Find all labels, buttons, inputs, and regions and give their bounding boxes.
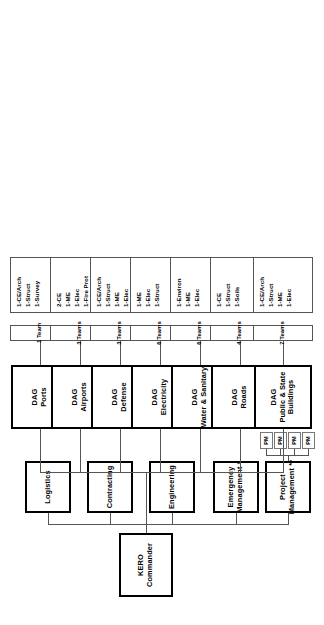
- pm-node-1[interactable]: PM: [260, 432, 273, 449]
- staff-label-4-line-2: Management **: [288, 460, 297, 514]
- dag-water-sanitary-name-line-2: Water & Sanitary: [200, 367, 209, 427]
- dag-roads-staff-item: 1-CE: [215, 284, 224, 307]
- dag-node-public-state-buildings[interactable]: DAGPublic & StateBuildings: [254, 365, 312, 429]
- dag-water-sanitary-teams-line-1: 6 Teams: [196, 321, 203, 345]
- dag-airports-staff-item: 2-CE: [55, 276, 64, 307]
- root-label-line-2: Commander: [146, 543, 155, 587]
- dag-water-sanitary-staff-item: 1-Elec: [193, 278, 202, 307]
- dag-electricity-staff-item: 1-ME: [135, 284, 144, 307]
- org-chart: KEROCommanderLogisticsContractingEnginee…: [0, 0, 324, 625]
- dag-stub-line-1: [80, 429, 81, 473]
- dag-ports-staff-item: 1-CE/Arch: [15, 277, 24, 307]
- dag-team-count-public-state-buildings[interactable]: 7 Teams: [253, 325, 313, 341]
- pm-spine: [266, 455, 308, 456]
- dag-electricity-name-line-2: Electricity: [160, 379, 169, 415]
- dag-defense-staff-item: 1-CE/Arch: [95, 277, 104, 307]
- staff-node-contracting[interactable]: Contracting: [87, 461, 133, 513]
- pm-feed-line: [288, 456, 289, 461]
- dag-electricity-staff-item: 1-Struct: [153, 284, 162, 307]
- dag-defense-staff-item: 1-Struct: [104, 277, 113, 307]
- dag-ports-staff-item: 1-Survey: [33, 277, 42, 307]
- dag-trunk: [40, 472, 283, 473]
- dag-airports-name-line-2: Airports: [80, 382, 89, 412]
- dag-stub-line-3: [160, 429, 161, 473]
- dag-ports-teams-line-1: 1 Team: [36, 323, 43, 343]
- dag-stub-line-2: [120, 429, 121, 473]
- dag-airports-staff-item: 1-Elec: [73, 276, 82, 307]
- pm-node-4[interactable]: PM: [302, 432, 315, 449]
- dag-water-sanitary-staff-item: 1-ME: [184, 278, 193, 307]
- dag-public-state-buildings-staff-item: 1-Elec: [285, 277, 294, 307]
- dag-airports-teams-line-1: 3 Teams: [76, 321, 83, 345]
- dag-electricity-teams-line-1: 6 Teams: [156, 321, 163, 345]
- dag-staff-list-public-state-buildings: 1-CE/Arch1-Struct1-ME1-Elec: [253, 257, 313, 313]
- chart-page: KEROCommanderLogisticsContractingEnginee…: [0, 0, 324, 625]
- dag-roads-staff-item: 1-Soils: [233, 284, 242, 307]
- dag-roads-staff-item: 1-Struct: [224, 284, 233, 307]
- staff-node-project[interactable]: ProjectManagement **: [265, 461, 311, 513]
- dag-roads-teams-line-1: 4 Teams: [236, 321, 243, 345]
- dag-defense-teams-line-1: 3 Teams: [116, 321, 123, 345]
- dag-ports-staff-item: 1-Struct: [24, 277, 33, 307]
- staff-node-engineering[interactable]: Engineering: [149, 461, 195, 513]
- dag-public-state-buildings-staff-item: 1-CE/Arch: [258, 277, 267, 307]
- dag-defense-staff-item: 1-ME: [113, 277, 122, 307]
- dag-public-state-buildings-name-line-3: Buildings: [287, 371, 296, 422]
- dag-public-state-buildings-staff-item: 1-Struct: [267, 277, 276, 307]
- staff-stub-line-4: [288, 513, 289, 525]
- dag-public-state-buildings-staff-item: 1-ME: [276, 277, 285, 307]
- pm-label-2-line-1: PM: [291, 436, 298, 444]
- pm-node-2[interactable]: PM: [274, 432, 287, 449]
- dag-airports-staff-item: 1-ME: [64, 276, 73, 307]
- dag-to-count-line-0: [40, 341, 41, 365]
- dag-stub-line-4: [200, 429, 201, 473]
- pm-stub-line-3: [308, 449, 309, 456]
- staff-node-logistics[interactable]: Logistics: [25, 461, 71, 513]
- staff-spine-lower-join: [146, 524, 236, 525]
- pm-label-0-line-1: PM: [263, 436, 270, 444]
- dag-roads-name-line-2: Roads: [240, 385, 249, 408]
- root-node-kero-commander[interactable]: KEROCommander: [119, 533, 173, 597]
- dag-ports-name-line-2: Ports: [40, 387, 49, 406]
- dag-electricity-staff-item: 1-Elec: [144, 284, 153, 307]
- pm-label-3-line-1: PM: [305, 436, 312, 444]
- dag-stub-line-5: [240, 429, 241, 473]
- dag-stub-line-6: [283, 429, 284, 473]
- dag-water-sanitary-staff-item: 1-Environ: [175, 278, 184, 307]
- dag-defense-name-line-2: Defense: [120, 382, 129, 411]
- staff-node-emergency[interactable]: EmergencyManagement *: [213, 461, 259, 513]
- dag-public-state-buildings-teams-line-1: 7 Teams: [279, 321, 286, 345]
- staff-label-0-line-1: Logistics: [44, 470, 53, 503]
- dag-stub-line-0: [40, 429, 41, 473]
- pm-node-3[interactable]: PM: [288, 432, 301, 449]
- staff-spine-lower: [236, 524, 288, 525]
- chart-rotation-wrapper: KEROCommanderLogisticsContractingEnginee…: [0, 0, 324, 625]
